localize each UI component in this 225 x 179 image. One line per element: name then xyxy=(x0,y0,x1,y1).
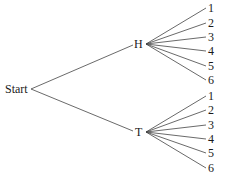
leaf-h-5: 5 xyxy=(208,60,214,72)
tree-diagram: Start H T 1 2 3 4 5 6 1 2 3 4 5 6 xyxy=(0,0,225,179)
leaf-h-2: 2 xyxy=(208,17,214,29)
leaf-t-6: 6 xyxy=(208,162,214,174)
leaf-h-6: 6 xyxy=(208,74,214,86)
node-t: T xyxy=(135,126,142,138)
tree-edges xyxy=(0,0,225,179)
leaf-t-1: 1 xyxy=(208,90,214,102)
leaf-t-5: 5 xyxy=(208,147,214,159)
leaf-t-2: 2 xyxy=(208,104,214,116)
node-h: H xyxy=(134,38,143,50)
leaf-h-1: 1 xyxy=(208,2,214,14)
leaf-t-3: 3 xyxy=(208,119,214,131)
leaf-h-3: 3 xyxy=(208,31,214,43)
node-start: Start xyxy=(5,83,28,95)
leaf-h-4: 4 xyxy=(208,45,214,57)
leaf-t-4: 4 xyxy=(208,133,214,145)
